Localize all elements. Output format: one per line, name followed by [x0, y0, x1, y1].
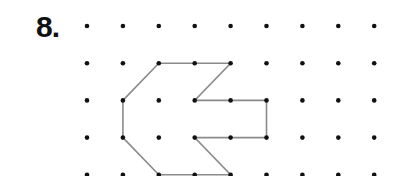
grid-dot [336, 173, 341, 177]
grid-dot [157, 61, 162, 66]
grid-dot [121, 173, 126, 177]
dot-grid-diagram [0, 0, 396, 176]
grid-dot [264, 98, 269, 103]
grid-dot [228, 61, 233, 66]
grid-dot [192, 98, 197, 103]
grid-dot [372, 24, 377, 29]
grid-dot [85, 173, 90, 177]
grid-dot [372, 173, 377, 177]
grid-dot [264, 135, 269, 140]
grid-dot [300, 24, 305, 29]
grid-dot [192, 135, 197, 140]
grid-dot [85, 135, 90, 140]
grid-dot [157, 24, 162, 29]
arrow-shape [123, 63, 267, 175]
grid-dot [336, 61, 341, 66]
grid-dot [372, 98, 377, 103]
dot-grid [85, 24, 377, 176]
grid-dot [228, 24, 233, 29]
grid-dot [300, 135, 305, 140]
grid-dot [264, 24, 269, 29]
grid-dot [192, 24, 197, 29]
grid-dot [300, 61, 305, 66]
grid-dot [300, 173, 305, 177]
grid-dot [264, 173, 269, 177]
grid-dot [372, 135, 377, 140]
grid-dot [85, 61, 90, 66]
grid-dot [300, 98, 305, 103]
grid-dot [264, 61, 269, 66]
grid-dot [121, 61, 126, 66]
grid-dot [336, 135, 341, 140]
grid-dot [228, 98, 233, 103]
grid-dot [121, 135, 126, 140]
grid-dot [121, 98, 126, 103]
grid-dot [228, 135, 233, 140]
grid-dot [336, 24, 341, 29]
grid-dot [85, 98, 90, 103]
grid-dot [121, 24, 126, 29]
grid-dot [372, 61, 377, 66]
grid-dot [192, 61, 197, 66]
grid-dot [157, 98, 162, 103]
grid-dot [336, 98, 341, 103]
grid-dot [157, 135, 162, 140]
grid-dot [85, 24, 90, 29]
grid-dot [192, 173, 197, 177]
